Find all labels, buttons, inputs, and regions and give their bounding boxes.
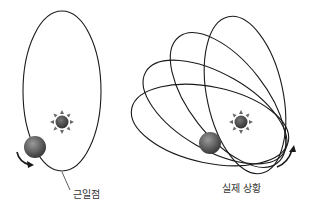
sun-icon (50, 110, 74, 134)
planet-icon-right (199, 132, 221, 154)
right-orbits (124, 9, 307, 187)
planet-icon (24, 136, 46, 158)
diagram-canvas (0, 0, 312, 214)
orbit-diagram: 근일점 실제 상황 (0, 0, 312, 214)
perihelion-label: 근일점 (73, 186, 100, 201)
sun-icon-right (229, 110, 253, 134)
actual-situation-label: 실제 상황 (222, 180, 261, 195)
perihelion-pointer (62, 172, 70, 190)
